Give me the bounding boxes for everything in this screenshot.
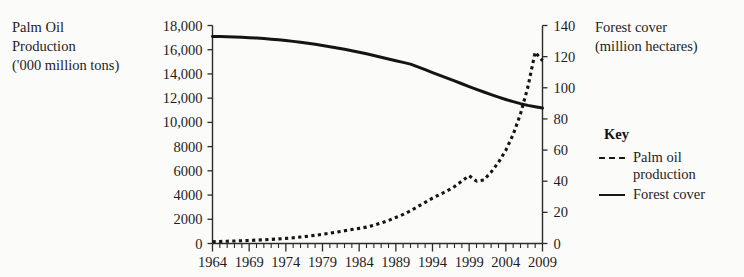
x-axis-tick-label: 1989	[381, 254, 410, 270]
right-axis-tick-label: 0	[554, 236, 561, 252]
left-axis-tick-label: 14,000	[163, 66, 203, 82]
left-axis-ticks: 0200040006000800010,00012,00014,00016,00…	[163, 18, 213, 252]
x-axis-tick-label: 2009	[528, 254, 557, 270]
chart-figure: Palm Oil Production ('000 million tons) …	[0, 0, 744, 277]
right-axis-tick-label: 140	[554, 18, 576, 34]
right-axis-tick-label: 40	[554, 173, 569, 189]
left-axis-tick-label: 18,000	[163, 18, 203, 34]
right-axis-tick-label: 80	[554, 111, 569, 127]
x-axis-tick-label: 1979	[308, 254, 337, 270]
left-axis-tick-label: 6000	[174, 163, 203, 179]
right-axis-tick-label: 120	[554, 49, 576, 65]
x-axis-tick-label: 1984	[345, 254, 375, 270]
x-axis-tick-label: 1994	[418, 254, 448, 270]
x-axis-tick-label: 2004	[491, 254, 521, 270]
left-axis-tick-label: 4000	[174, 187, 203, 203]
left-axis-tick-label: 2000	[174, 211, 203, 227]
series-forest-cover	[213, 36, 543, 108]
left-axis-tick-label: 8000	[174, 139, 203, 155]
right-axis-ticks: 020406080100120140	[543, 18, 576, 252]
left-axis-tick-label: 0	[195, 236, 202, 252]
right-axis-tick-label: 20	[554, 204, 569, 220]
right-axis-tick-label: 100	[554, 80, 576, 96]
x-axis-tick-label: 1969	[235, 254, 264, 270]
x-axis-tick-label: 1999	[455, 254, 484, 270]
series-palm-oil-production	[213, 52, 543, 242]
left-axis-tick-label: 16,000	[163, 42, 203, 58]
x-axis-tick-label: 1964	[198, 254, 228, 270]
plot-area: 0200040006000800010,00012,00014,00016,00…	[0, 0, 744, 277]
x-axis-ticks: 1964196919741979198419891994199920042009	[198, 244, 557, 270]
x-axis-tick-label: 1974	[271, 254, 301, 270]
left-axis-tick-label: 12,000	[163, 90, 203, 106]
left-axis-tick-label: 10,000	[163, 114, 203, 130]
right-axis-tick-label: 60	[554, 142, 569, 158]
